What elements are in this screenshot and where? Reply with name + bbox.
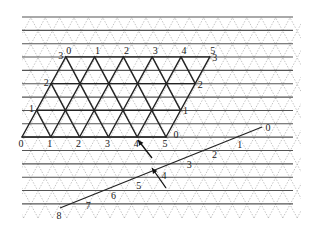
top-label: 0 (66, 45, 71, 56)
line-label: 2 (212, 149, 217, 160)
left-label: 3 (58, 50, 63, 61)
right-label: 2 (198, 79, 203, 90)
line-label: 3 (187, 159, 192, 170)
top-label: 3 (153, 45, 158, 56)
bottom-label: 0 (19, 138, 24, 149)
left-label: 2 (44, 77, 49, 88)
top-label: 2 (124, 45, 129, 56)
top-label: 1 (95, 45, 100, 56)
line-label: 1 (237, 139, 242, 150)
dashed-lattice (0, 17, 318, 218)
bottom-label: 5 (163, 138, 168, 149)
triangular-lattice-diagram: 0123450123451230123012345678 (0, 0, 318, 235)
line-label: 6 (111, 190, 116, 201)
top-label: 4 (182, 45, 187, 56)
line-label: 4 (162, 170, 167, 181)
bottom-label: 2 (76, 138, 81, 149)
right-label: 0 (174, 129, 179, 140)
bottom-label: 4 (134, 138, 139, 149)
bottom-label: 1 (47, 138, 52, 149)
line-label: 0 (266, 122, 271, 133)
inclined-line (60, 127, 262, 208)
right-label: 3 (212, 52, 217, 63)
left-label: 1 (29, 103, 34, 114)
line-label: 8 (57, 210, 62, 221)
right-label: 1 (183, 105, 188, 116)
line-label: 5 (136, 180, 141, 191)
line-label: 7 (86, 200, 91, 211)
bottom-label: 3 (105, 138, 110, 149)
